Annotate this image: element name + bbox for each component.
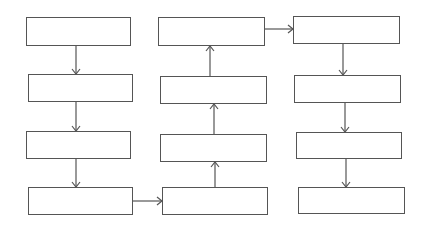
arrow-c3-to-c4-icon bbox=[342, 159, 350, 187]
arrow-a1-to-a2-icon bbox=[72, 46, 80, 74]
arrow-a4-to-b4-icon bbox=[133, 197, 162, 205]
arrow-c2-to-c3-icon bbox=[341, 103, 349, 132]
arrow-b1-to-c1-icon bbox=[265, 25, 293, 33]
arrow-b2-to-b1-icon bbox=[206, 46, 214, 76]
arrow-a2-to-a3-icon bbox=[72, 102, 80, 131]
arrow-c1-to-c2-icon bbox=[339, 44, 347, 75]
arrow-b4-to-b3-icon bbox=[211, 162, 219, 187]
flowchart-arrows bbox=[0, 0, 424, 231]
arrow-b3-to-b2-icon bbox=[210, 104, 218, 134]
arrow-a3-to-a4-icon bbox=[72, 159, 80, 187]
